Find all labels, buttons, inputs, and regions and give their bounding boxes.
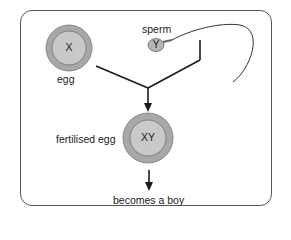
arrow-down-icon	[145, 170, 153, 191]
converging-arrows	[96, 40, 200, 112]
sperm-label: sperm	[142, 23, 171, 35]
sperm-chromosome: Y	[150, 39, 162, 50]
fertilised-egg-chromosome: XY	[133, 131, 163, 143]
fertilised-egg-label: fertilised egg	[56, 133, 116, 145]
outcome-label: becomes a boy	[113, 194, 184, 206]
egg-chromosome: X	[59, 41, 79, 53]
egg-label: egg	[57, 73, 75, 85]
